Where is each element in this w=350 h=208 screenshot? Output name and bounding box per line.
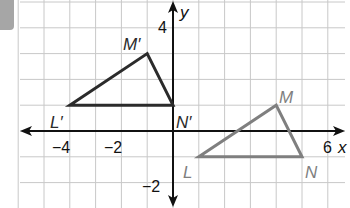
y-tick-4: 4 (158, 19, 167, 36)
x-tick-neg4: −4 (52, 139, 70, 156)
x-tick-neg2: −2 (104, 139, 122, 156)
x-tick-6: 6 (323, 139, 332, 156)
y-axis-label: y (179, 3, 190, 22)
label-N: N (305, 163, 318, 182)
label-M-prime: M′ (123, 35, 141, 54)
coordinate-plane: y x −4 −2 6 4 −2 L′ M′ N′ L M N (0, 0, 350, 208)
label-L-prime: L′ (50, 113, 63, 132)
label-N-prime: N′ (176, 113, 192, 132)
side-tab[interactable] (0, 0, 14, 30)
label-M: M (279, 88, 294, 107)
label-L: L (183, 163, 192, 182)
graph-svg: y x −4 −2 6 4 −2 L′ M′ N′ L M N (0, 0, 350, 208)
x-axis-label: x (337, 138, 347, 157)
grid-lines (18, 0, 345, 208)
y-tick-neg2: −2 (142, 178, 160, 195)
